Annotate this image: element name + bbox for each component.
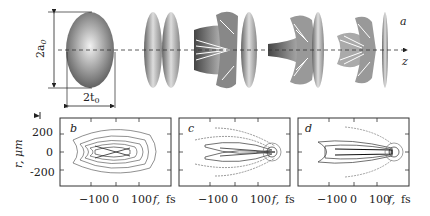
x-tick: 100	[131, 193, 152, 206]
y-tick: -200	[30, 166, 55, 179]
figure-canvas: 2a0 2t0 z a	[0, 0, 430, 216]
panel-b: b	[60, 118, 171, 186]
y-axis: r, μm 200 0 -200	[12, 112, 55, 179]
y-axis-label: r, μm	[12, 139, 25, 168]
panel-label-b: b	[70, 122, 77, 135]
x-axis-unit: fs	[401, 193, 411, 206]
width-label: 2t0	[83, 91, 100, 105]
height-label: 2a0	[34, 39, 48, 58]
x-axis-unit: fs	[166, 193, 176, 206]
z-axis-label: z	[401, 55, 408, 68]
x-tick: 0	[231, 193, 238, 206]
x-tick: 0	[350, 193, 357, 206]
x-tick: −100	[317, 193, 347, 206]
panel-d: d	[298, 118, 409, 186]
x-tick: 100	[369, 193, 390, 206]
x-axis-labels: −100 0 100 f, fs −100 0 100 f, fs −100 0…	[79, 193, 411, 206]
x-tick: 0	[112, 193, 119, 206]
tick-marks	[60, 118, 409, 186]
panel-a: 2a0 2t0 z a	[34, 12, 408, 108]
y-tick: 0	[46, 146, 53, 159]
panel-c: c	[179, 118, 290, 186]
x-tick: −100	[198, 193, 228, 206]
x-tick: −100	[79, 193, 109, 206]
y-tick: 200	[32, 126, 53, 139]
x-axis-label: f,	[152, 193, 160, 206]
x-axis-label: f,	[387, 193, 395, 206]
panel-label-a: a	[400, 15, 407, 28]
x-axis-label: f,	[271, 193, 279, 206]
panel-label-c: c	[188, 122, 194, 135]
panel-label-d: d	[305, 122, 312, 135]
x-axis-unit: fs	[285, 193, 295, 206]
x-tick: 100	[250, 193, 271, 206]
